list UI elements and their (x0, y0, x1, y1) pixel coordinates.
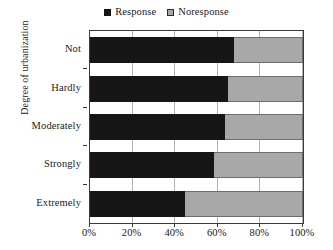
bar-segment-noresponse (228, 76, 303, 102)
x-axis-tick-labels: 0%20%40%60%80%100% (89, 223, 302, 245)
y-axis-tick-label: Strongly (44, 159, 81, 170)
y-axis-tick-label: Moderately (32, 121, 81, 132)
y-axis-tick-label: Hardly (51, 83, 81, 94)
y-axis-tick-mark (83, 145, 87, 146)
bar-segment-noresponse (225, 114, 303, 140)
legend-swatch-response-icon (104, 9, 111, 16)
bar-segment-response (90, 191, 185, 217)
x-axis-tick-label: 100% (290, 228, 315, 239)
bar-segment-response (90, 114, 225, 140)
x-axis-tick-label: 40% (164, 228, 184, 239)
bar-row (90, 76, 303, 102)
chart-legend: Response Noresponse (0, 7, 333, 18)
x-axis-tick-label: 20% (122, 228, 142, 239)
bar-segment-noresponse (214, 152, 303, 178)
bar-row (90, 37, 303, 63)
bar-segment-noresponse (234, 37, 303, 63)
stacked-bar-chart: Response Noresponse Degree of urbanizati… (0, 0, 333, 250)
plot-area (89, 30, 304, 224)
legend-label-noresponse: Noresponse (178, 7, 229, 18)
x-axis-tick-label: 60% (207, 228, 227, 239)
y-axis-tick-label: Extremely (36, 198, 81, 209)
y-axis-tick-label: Not (65, 44, 81, 55)
y-axis-tick-mark (83, 107, 87, 108)
y-axis-tick-mark (83, 68, 87, 69)
legend-label-response: Response (115, 7, 156, 18)
bar-segment-response (90, 76, 228, 102)
x-axis-tick-label: 0% (82, 228, 96, 239)
bar-segment-response (90, 37, 234, 63)
y-axis-tick-mark (83, 184, 87, 185)
bar-row (90, 152, 303, 178)
bar-row (90, 191, 303, 217)
bar-series-container (90, 31, 303, 223)
legend-swatch-noresponse-icon (167, 9, 174, 16)
bar-row (90, 114, 303, 140)
y-axis-tick-labels: NotHardlyModeratelyStronglyExtremely (0, 30, 87, 222)
bar-segment-noresponse (185, 191, 303, 217)
x-axis-tick-label: 80% (250, 228, 270, 239)
bar-segment-response (90, 152, 214, 178)
legend-entry-response: Response (104, 7, 156, 18)
legend-entry-noresponse: Noresponse (167, 7, 229, 18)
